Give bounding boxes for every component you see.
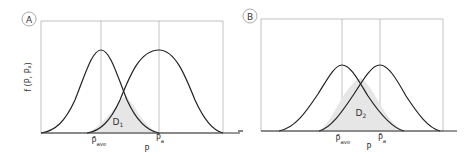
panel-a-x-axis-label: P bbox=[145, 145, 150, 154]
panel-b: B D2 P̄ave P̄a P bbox=[238, 9, 457, 152]
panel-b-x-axis-label: P bbox=[367, 143, 372, 152]
panel-a-badge-label: A bbox=[26, 15, 33, 25]
panel-b-badge-label: B bbox=[247, 12, 253, 22]
panel-b-a-label: P̄a bbox=[378, 133, 386, 144]
panel-a-curve-a bbox=[87, 50, 223, 133]
panel-a-a-label: P̄a bbox=[156, 133, 164, 144]
panel-b-ave-label: P̄ave bbox=[336, 134, 351, 145]
panel-b-badge: B bbox=[243, 9, 257, 23]
panel-a: A f (P, Pₐ) D1 P̄ave P̄a P bbox=[22, 12, 240, 154]
panel-a-y-axis-label: f (P, Pₐ) bbox=[24, 62, 33, 91]
panel-a-badge: A bbox=[22, 12, 36, 26]
panel-a-ave-label: P̄ave bbox=[92, 136, 107, 147]
diagram-canvas: A f (P, Pₐ) D1 P̄ave P̄a P B D2 P̄ave P̄… bbox=[0, 0, 474, 158]
